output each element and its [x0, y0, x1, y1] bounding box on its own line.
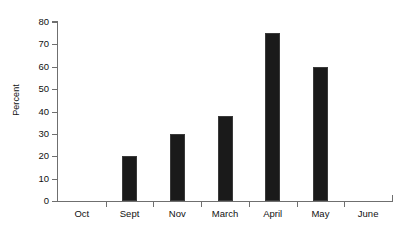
y-axis-title: Percent [9, 0, 23, 200]
x-axis-tick-label: May [297, 208, 345, 219]
x-axis-tick-label: Nov [153, 208, 201, 219]
y-axis-tick [52, 89, 58, 90]
y-axis-tick-label: 80 [3, 17, 49, 27]
x-axis-end-tick [392, 195, 393, 202]
y-axis-tick-label: 50 [3, 84, 49, 94]
x-axis-tick [344, 201, 345, 207]
y-axis-tick [52, 179, 58, 180]
bar [265, 33, 280, 201]
y-axis-tick [52, 22, 58, 23]
y-axis-tick-label: 20 [3, 151, 49, 161]
x-axis-tick [297, 201, 298, 207]
plot-area [58, 22, 392, 201]
y-axis-tick [52, 201, 58, 202]
bar [122, 156, 137, 201]
y-axis-tick [52, 134, 58, 135]
y-axis-tick-label: 0 [3, 196, 49, 206]
y-axis-tick-label: 70 [3, 39, 49, 49]
y-axis-tick-label: 30 [3, 129, 49, 139]
bar [170, 134, 185, 201]
x-axis-tick-label: June [344, 208, 392, 219]
x-axis-tick [106, 201, 107, 207]
y-axis-tick [52, 67, 58, 68]
y-axis-tick-label: 40 [3, 107, 49, 117]
x-axis-tick-label: April [249, 208, 297, 219]
y-axis-tick [52, 156, 58, 157]
y-axis-tick-label: 10 [3, 174, 49, 184]
x-axis-line [57, 201, 393, 202]
y-axis-title-label: Percent [11, 84, 21, 116]
bar [313, 67, 328, 201]
y-axis-tick [52, 44, 58, 45]
y-axis-tick-label: 60 [3, 62, 49, 72]
x-axis-tick-label: Sept [106, 208, 154, 219]
bar-chart-figure: Percent 01020304050607080 OctSeptNovMarc… [0, 0, 418, 230]
x-axis-tick-label: March [201, 208, 249, 219]
x-axis-tick [153, 201, 154, 207]
x-axis-tick-label: Oct [58, 208, 106, 219]
y-axis-tick-labels: 01020304050607080 [0, 0, 49, 230]
y-axis-tick [52, 112, 58, 113]
x-axis-tick [249, 201, 250, 207]
x-axis-tick [201, 201, 202, 207]
bar [218, 116, 233, 201]
